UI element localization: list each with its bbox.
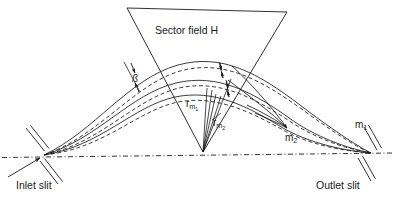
inlet-slit-label: Inlet slit	[16, 180, 52, 191]
radius-m1-subscript: m1	[189, 102, 198, 111]
figure-canvas: Sector field H Inlet slit Outlet slit ß …	[0, 0, 396, 203]
incoming-beam-arrow	[8, 158, 40, 177]
m2-convergence-rays	[228, 66, 287, 128]
radius-m2-label: rm2	[213, 118, 225, 128]
mass-m2-label: m2	[285, 133, 297, 143]
beam-width-marker-lower	[226, 80, 229, 97]
beam-width-marker-upper	[219, 62, 223, 78]
beta-angle-label: ß	[132, 74, 138, 84]
sector-field-label: Sector field H	[155, 25, 218, 36]
mass-m1-label: m1	[355, 120, 367, 130]
outlet-slit-label: Outlet slit	[316, 180, 360, 191]
radius-m1-label: rm1	[186, 99, 198, 109]
radius-m2-subscript: m2	[216, 121, 225, 130]
ion-trajectory-inner	[44, 95, 371, 155]
radius-lines	[203, 79, 231, 152]
optical-axis	[2, 153, 394, 158]
